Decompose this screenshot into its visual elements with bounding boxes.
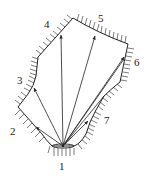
- label-1: 1: [59, 160, 65, 172]
- label-5: 5: [98, 12, 104, 24]
- ray-to-4: [61, 35, 63, 146]
- label-7: 7: [104, 114, 110, 126]
- label-2: 2: [10, 125, 16, 137]
- ray-to-3: [34, 88, 63, 146]
- room-ray-diagram: 1 2 3 4 5 6 7: [0, 0, 150, 176]
- label-6: 6: [134, 56, 140, 68]
- label-3: 3: [17, 74, 23, 86]
- room-wall-outline: [18, 18, 128, 146]
- label-4: 4: [44, 18, 50, 30]
- ray-to-6b: [63, 59, 124, 146]
